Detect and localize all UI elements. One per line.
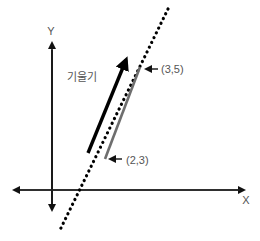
slope-diagram: Y X 기울기 (3,5) (2,3): [0, 0, 260, 241]
y-axis-label: Y: [47, 25, 55, 37]
point-segment: [105, 67, 140, 159]
dotted-line: [60, 9, 168, 230]
point-2-3-label: (2,3): [126, 154, 149, 166]
slope-label: 기울기: [67, 71, 97, 83]
point-3-5-label: (3,5): [161, 63, 184, 75]
x-axis-label: X: [242, 194, 250, 206]
